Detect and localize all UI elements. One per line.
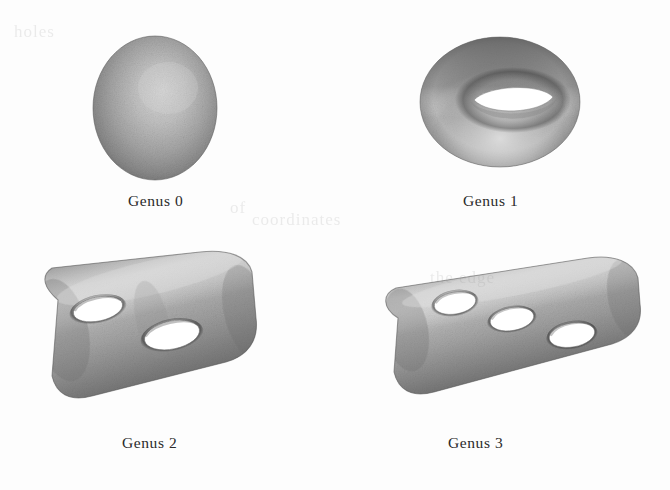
caption-genus-1: Genus 1 <box>463 192 518 210</box>
genus-1-surface <box>420 37 580 167</box>
caption-genus-2: Genus 2 <box>122 434 177 452</box>
genus-0-surface <box>93 36 217 180</box>
genus-3-surface <box>368 223 668 428</box>
genus-figure: holes of the edge coordinates Genus 0 Ge… <box>0 0 670 490</box>
caption-genus-0: Genus 0 <box>128 192 183 210</box>
caption-genus-3: Genus 3 <box>448 434 503 452</box>
genus-figure-canvas <box>0 0 670 490</box>
genus-2-surface <box>4 213 297 442</box>
